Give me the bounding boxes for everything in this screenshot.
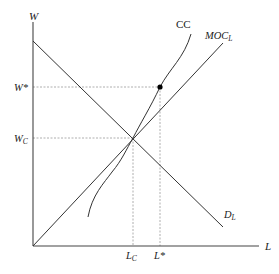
lc-label-sub: C	[132, 254, 138, 263]
moc-label: MOCL	[204, 30, 233, 43]
lc-label: LC	[125, 250, 138, 263]
reference-lines	[33, 87, 160, 246]
diagram-canvas: W L CC MOCL DL W* WC LC L*	[0, 0, 279, 274]
demand-label-sub: L	[231, 213, 236, 222]
wc-label: WC	[14, 133, 29, 146]
wc-label-sub: C	[23, 137, 29, 146]
demand-curve	[33, 41, 223, 227]
x-axis-label: L	[264, 240, 271, 252]
lstar-label: L*	[153, 250, 166, 261]
y-axis-label: W	[29, 10, 39, 22]
moc-label-main: MOC	[204, 30, 229, 41]
demand-label: DL	[223, 209, 236, 222]
curves	[33, 34, 223, 246]
cc-curve	[88, 34, 191, 217]
equilibrium-dot	[157, 84, 162, 89]
cc-label: CC	[176, 18, 191, 30]
moc-curve	[33, 43, 223, 246]
moc-label-sub: L	[227, 34, 232, 43]
wstar-label: W*	[14, 82, 29, 93]
